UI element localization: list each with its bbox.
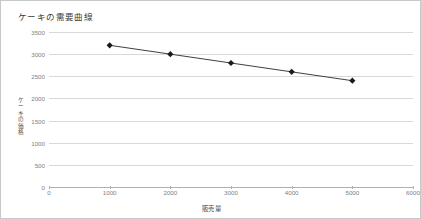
x-axis-tick-label: 0	[47, 189, 50, 196]
x-axis-tick-labels: 0100020003000400050006000	[49, 189, 413, 201]
chart-title: ケーキの需要曲線	[18, 10, 93, 22]
data-point-marker	[167, 51, 173, 57]
x-axis-title: 販売量	[1, 204, 421, 213]
plot-area	[49, 32, 413, 187]
y-axis-tick-label: 3500	[5, 29, 45, 36]
x-axis-tick-label: 4000	[285, 189, 299, 196]
data-point-marker	[349, 78, 355, 84]
x-axis-tick-label: 5000	[345, 189, 359, 196]
y-axis-tick-label: 1000	[5, 139, 45, 146]
y-axis-title: ケーキの価格	[16, 97, 26, 135]
data-point-marker	[107, 42, 113, 48]
demand-curve-series	[49, 32, 413, 187]
data-point-marker	[289, 69, 295, 75]
chart-container: ケーキの需要曲線 0500100015002000250030003500 ケー…	[0, 0, 421, 219]
y-axis-tick-label: 3000	[5, 51, 45, 58]
x-axis-tick-label: 3000	[224, 189, 238, 196]
x-axis-tick-label: 6000	[406, 189, 420, 196]
x-axis-tick-label: 2000	[163, 189, 177, 196]
y-axis-tick-label: 2500	[5, 73, 45, 80]
y-axis-tick-label: 0	[5, 184, 45, 191]
data-point-marker	[228, 60, 234, 66]
y-axis-tick-label: 500	[5, 161, 45, 168]
x-axis-tick-label: 1000	[103, 189, 117, 196]
